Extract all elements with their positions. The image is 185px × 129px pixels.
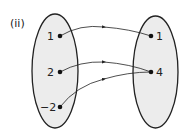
mapping-diagram: (ii) 1 2 −2 1 4 <box>0 0 185 129</box>
domain-dot-neg2 <box>58 105 63 110</box>
codomain-dot-1 <box>149 34 154 39</box>
domain-dot-2 <box>58 70 63 75</box>
part-label: (ii) <box>10 17 25 30</box>
domain-dot-1 <box>58 34 63 39</box>
codomain-label-1: 1 <box>156 30 163 43</box>
codomain-dot-4 <box>149 70 154 75</box>
domain-label-1: 1 <box>47 30 54 43</box>
domain-label-neg2: −2 <box>40 101 56 114</box>
domain-label-2: 2 <box>47 66 54 79</box>
codomain-label-4: 4 <box>156 66 163 79</box>
